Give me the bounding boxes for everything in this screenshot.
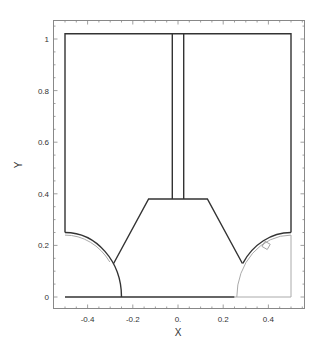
chart: -0.4-0.20.0.20.400.20.40.60.81 X Y (0, 0, 324, 356)
y-tick-label: 0.2 (38, 241, 50, 250)
x-tick-label: -0.2 (126, 315, 140, 324)
plot-frame (54, 21, 305, 309)
x-tick-label: 0.2 (218, 315, 230, 324)
y-tick-label: 0 (45, 293, 50, 302)
axis-ticks (54, 21, 305, 309)
outer-boundary-line (65, 34, 291, 233)
right-arc-outer-line (243, 233, 291, 264)
right-arc-inner-line (237, 235, 291, 297)
left-arc-outer-line (65, 233, 122, 298)
x-tick-label: 0. (175, 315, 182, 324)
x-axis-label: X (175, 327, 182, 338)
y-tick-label: 0.4 (38, 190, 50, 199)
y-tick-label: 0.6 (38, 138, 50, 147)
x-tick-label: -0.4 (81, 315, 95, 324)
y-axis-label: Y (13, 161, 24, 168)
square-marker (262, 241, 270, 249)
y-tick-label: 1 (45, 35, 50, 44)
plot-area (65, 34, 291, 297)
y-tick-label: 0.8 (38, 87, 50, 96)
trapezoid-line (114, 199, 243, 264)
x-tick-label: 0.4 (263, 315, 275, 324)
